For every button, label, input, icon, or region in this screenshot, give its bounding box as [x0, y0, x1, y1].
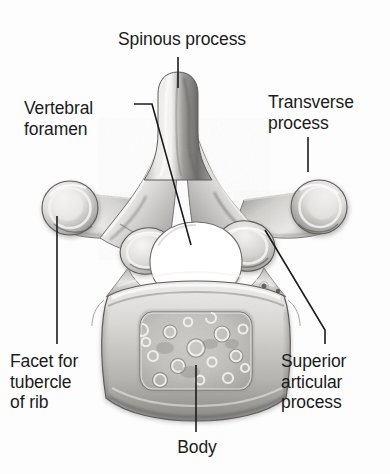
label-transverse-process-line1: Transverse — [268, 92, 354, 112]
label-transverse-process-line2: process — [268, 113, 329, 133]
label-superior-articular-line3: process — [281, 392, 342, 412]
label-vertebral-foramen: Vertebralforamen — [24, 98, 156, 139]
costal-facet-right — [291, 180, 349, 237]
label-superior-articular-line1: Superior — [281, 351, 346, 371]
label-vertebral-foramen-line2: foramen — [24, 119, 88, 139]
label-vertebral-foramen-line1: Vertebral — [24, 98, 93, 118]
label-body: Body — [152, 437, 242, 458]
label-facet-tubercle-line1: Facet for — [10, 351, 78, 371]
label-facet-for-tubercle-of-rib: Facet fortubercleof rib — [10, 351, 122, 413]
label-spinous-process: Spinous process — [96, 29, 268, 50]
label-facet-tubercle-line3: of rib — [10, 392, 48, 412]
label-facet-tubercle-line2: tubercle — [10, 372, 71, 392]
label-superior-articular-process: Superiorarticularprocess — [281, 351, 385, 413]
label-transverse-process: Transverseprocess — [268, 92, 386, 133]
label-superior-articular-line2: articular — [281, 372, 342, 392]
figure-canvas: Spinous process Vertebralforamen Transve… — [0, 0, 390, 474]
costal-facet-left — [42, 181, 100, 238]
